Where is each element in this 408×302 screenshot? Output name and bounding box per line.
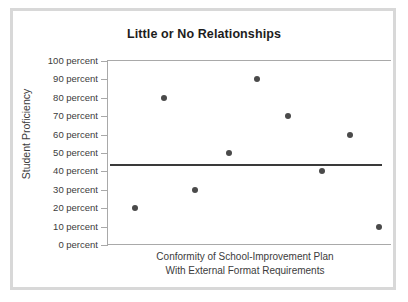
y-axis-tick-label: 60 percent [0,130,98,140]
data-point [254,76,260,82]
data-point [347,132,353,138]
y-axis-tick-label: 20 percent [0,203,98,213]
plot-area [107,61,390,245]
data-point [161,95,167,101]
y-axis-tick-label: 80 percent [0,93,98,103]
data-point [226,150,232,156]
x-axis-title-line-2: With External Format Requirements [95,264,395,278]
y-axis-tick-label: 50 percent [0,148,98,158]
data-point [192,187,198,193]
y-axis-tick [101,245,107,246]
y-axis-tick-label: 0 percent [0,240,98,250]
y-axis-tick-label: 70 percent [0,111,98,121]
trend-line [110,164,382,166]
data-point [285,113,291,119]
data-point [319,168,325,174]
y-axis-tick-label: 30 percent [0,185,98,195]
y-axis-tick-label: 90 percent [0,74,98,84]
data-point [376,224,382,230]
y-axis-tick-label: 10 percent [0,222,98,232]
y-axis-tick-label: 40 percent [0,166,98,176]
x-axis-title: Conformity of School-Improvement Plan Wi… [95,250,395,278]
y-axis-tick-label: 100 percent [0,56,98,66]
y-axis-title: Student Proficiency [20,74,32,194]
chart-figure: Little or No Relationships 100 percent90… [0,0,408,302]
data-point [132,205,138,211]
x-axis-title-line-1: Conformity of School-Improvement Plan [95,250,395,264]
chart-title: Little or No Relationships [0,27,408,41]
